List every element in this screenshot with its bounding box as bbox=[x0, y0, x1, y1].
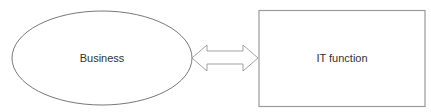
business-node: Business bbox=[12, 11, 192, 105]
double-arrow-icon bbox=[192, 45, 258, 71]
it-function-node: IT function bbox=[259, 11, 425, 107]
double-arrow bbox=[192, 45, 258, 71]
diagram-canvas: Business IT function bbox=[0, 0, 431, 112]
it-function-label: IT function bbox=[316, 52, 367, 64]
business-label: Business bbox=[80, 52, 125, 64]
